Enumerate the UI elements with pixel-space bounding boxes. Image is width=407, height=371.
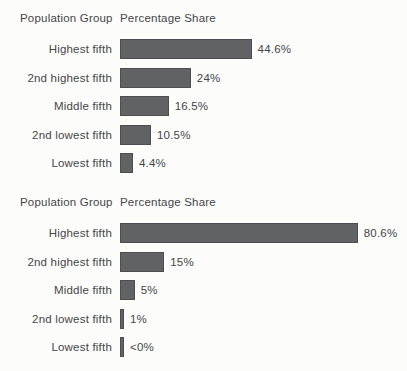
bar xyxy=(120,223,358,243)
bar-rows: Highest fifth80.6%2nd highest fifth15%Mi… xyxy=(0,223,407,357)
bar xyxy=(120,125,151,145)
column-header-population-group: Population Group xyxy=(20,195,113,209)
figure-canvas: Population Group Percentage Share Highes… xyxy=(0,0,407,371)
bar-row: Highest fifth44.6% xyxy=(0,39,407,59)
bar xyxy=(120,252,164,272)
category-label: Lowest fifth xyxy=(0,157,120,169)
category-label: Highest fifth xyxy=(0,227,120,239)
bar xyxy=(120,96,169,116)
category-label: Middle fifth xyxy=(0,100,120,112)
category-label: Middle fifth xyxy=(0,284,120,296)
bar xyxy=(120,337,124,357)
value-label: 16.5% xyxy=(175,100,209,112)
bar-row: 2nd highest fifth24% xyxy=(0,68,407,88)
chart-top: Population Group Percentage Share Highes… xyxy=(0,11,407,182)
column-header-percentage-share: Percentage Share xyxy=(120,195,216,209)
bar-rows: Highest fifth44.6%2nd highest fifth24%Mi… xyxy=(0,39,407,173)
bar-row: Middle fifth16.5% xyxy=(0,96,407,116)
chart-bottom: Population Group Percentage Share Highes… xyxy=(0,195,407,366)
value-label: 80.6% xyxy=(364,227,398,239)
value-label: 15% xyxy=(170,256,194,268)
value-label: <0% xyxy=(130,341,154,353)
bar xyxy=(120,68,191,88)
category-label: 2nd lowest fifth xyxy=(0,129,120,141)
column-header-population-group: Population Group xyxy=(20,11,113,25)
category-label: Lowest fifth xyxy=(0,341,120,353)
bar-row: Lowest fifth4.4% xyxy=(0,153,407,173)
bar-row: 2nd lowest fifth10.5% xyxy=(0,125,407,145)
bar xyxy=(120,39,252,59)
bar-row: Lowest fifth<0% xyxy=(0,337,407,357)
column-header-percentage-share: Percentage Share xyxy=(120,11,216,25)
value-label: 4.4% xyxy=(139,157,166,169)
value-label: 10.5% xyxy=(157,129,191,141)
bar-row: Middle fifth5% xyxy=(0,280,407,300)
bar-row: 2nd lowest fifth1% xyxy=(0,309,407,329)
category-label: 2nd highest fifth xyxy=(0,72,120,84)
category-label: 2nd lowest fifth xyxy=(0,313,120,325)
category-label: Highest fifth xyxy=(0,43,120,55)
chart-header: Population Group Percentage Share xyxy=(0,11,407,25)
chart-header: Population Group Percentage Share xyxy=(0,195,407,209)
value-label: 5% xyxy=(141,284,158,296)
bar xyxy=(120,153,133,173)
value-label: 1% xyxy=(130,313,147,325)
value-label: 24% xyxy=(197,72,221,84)
bar xyxy=(120,309,124,329)
value-label: 44.6% xyxy=(258,43,292,55)
bar xyxy=(120,280,135,300)
bar-row: 2nd highest fifth15% xyxy=(0,252,407,272)
bar-row: Highest fifth80.6% xyxy=(0,223,407,243)
category-label: 2nd highest fifth xyxy=(0,256,120,268)
